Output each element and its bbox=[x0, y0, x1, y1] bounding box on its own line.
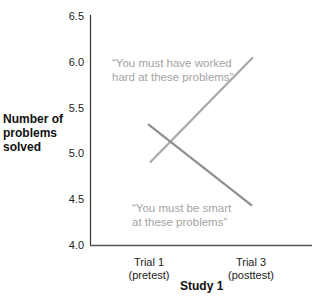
plot-area bbox=[0, 0, 321, 298]
x-tick-line: Trial 3 bbox=[216, 256, 286, 269]
annotation-line: “You must have worked bbox=[112, 56, 233, 70]
annotation-line: hard at these problems” bbox=[112, 70, 233, 84]
series-line-smart bbox=[148, 124, 252, 206]
x-tick-line: (posttest) bbox=[216, 269, 286, 282]
x-tick-line: (pretest) bbox=[114, 269, 184, 282]
annotation-line: at these problems” bbox=[132, 215, 231, 229]
annotation-smart: “You must be smart at these problems” bbox=[132, 201, 231, 229]
x-axis-label: Study 1 bbox=[180, 279, 223, 293]
annotation-line: “You must be smart bbox=[132, 201, 231, 215]
x-tick-trial-3: Trial 3 (posttest) bbox=[216, 256, 286, 282]
x-tick-line: Trial 1 bbox=[114, 256, 184, 269]
annotation-worked-hard: “You must have worked hard at these prob… bbox=[112, 56, 233, 84]
x-tick-trial-1: Trial 1 (pretest) bbox=[114, 256, 184, 282]
